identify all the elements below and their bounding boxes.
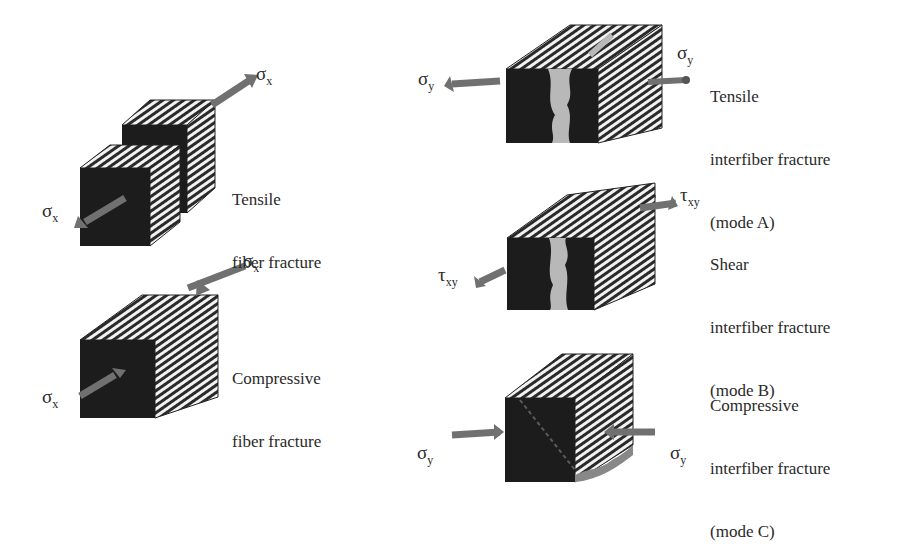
stress-label-sigma-x: σx [256, 63, 272, 89]
caption-compressive-interfiber-mode-c: Compressive interfiber fracture (mode C) [710, 353, 830, 545]
stress-label-tau-xy: τxy [680, 184, 700, 210]
shear-interfiber-cube [474, 183, 678, 310]
compressive-interfiber-cube [452, 354, 655, 482]
stress-label-sigma-y: σy [418, 68, 434, 94]
sigma-x-arrow-out [212, 80, 250, 105]
stress-label-sigma-y: σy [677, 42, 693, 68]
caption-tensile-fiber: Tensile fiber fracture [232, 147, 321, 294]
stress-label-tau-xy: τxy [438, 264, 458, 290]
stress-label-sigma-y: σy [417, 442, 433, 468]
caption-compressive-fiber: Compressive fiber fracture [232, 326, 321, 473]
compressive-fiber-cube [80, 266, 245, 418]
stress-label-sigma-y: σy [670, 442, 686, 468]
stress-label-sigma-x: σx [42, 200, 58, 226]
stress-label-sigma-x: σx [42, 386, 58, 412]
tensile-fiber-cube [74, 74, 258, 246]
tensile-interfiber-cube [444, 25, 690, 143]
